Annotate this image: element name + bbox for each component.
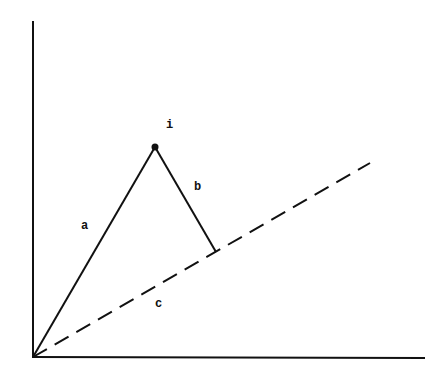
point-i-dot (152, 144, 159, 151)
line-c-dashed (33, 163, 370, 357)
label-b: b (194, 180, 201, 194)
label-i: i (166, 118, 173, 132)
vector-diagram: i a b c (0, 0, 448, 388)
label-c: c (155, 297, 162, 311)
x-axis (33, 357, 424, 358)
label-a: a (81, 219, 88, 233)
line-a (33, 147, 155, 357)
line-b (155, 147, 216, 252)
